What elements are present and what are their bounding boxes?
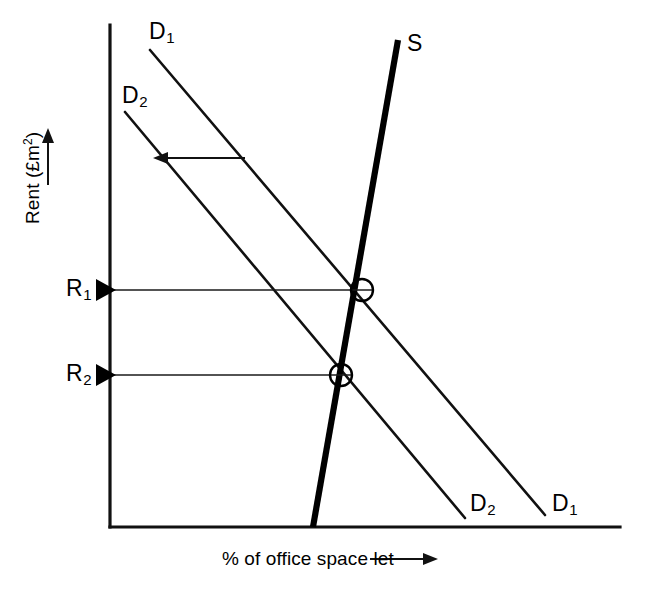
rent-marker-triangle-r2: [96, 364, 116, 386]
demand-curve-d1: [150, 50, 545, 515]
demand-curve-label-d2-top: D2: [122, 84, 147, 107]
d1-top-base: D: [149, 18, 166, 44]
r2-sub: 2: [83, 371, 91, 388]
supply-curve-s: [313, 40, 398, 527]
r1-sub: 1: [83, 286, 91, 303]
arrow-up-icon: [42, 128, 54, 143]
demand-curve-label-d2-bottom: D2: [470, 492, 495, 515]
demand-curve-label-d1-bottom: D1: [552, 492, 577, 515]
r2-base: R: [66, 360, 83, 386]
supply-demand-figure: D1 D2 D2 D1 S R1 R2 Rent (£m2) % of offi…: [0, 0, 650, 594]
d2-bottom-sub: 2: [487, 501, 495, 518]
d1-top-sub: 1: [166, 29, 174, 46]
d1-bottom-base: D: [552, 490, 569, 516]
rent-level-label-r2: R2: [66, 362, 91, 385]
rent-marker-triangle-r1: [96, 279, 116, 301]
r1-base: R: [66, 275, 83, 301]
demand-curve-d2: [125, 112, 465, 518]
d2-top-sub: 2: [139, 93, 147, 110]
x-axis-title: % of office space let: [222, 549, 394, 568]
y-axis-title-text: Rent (£m: [22, 145, 43, 224]
y-axis-title-exponent: 2: [21, 138, 35, 145]
demand-curve-label-d1-top: D1: [149, 20, 174, 43]
arrow-right-icon: [423, 553, 438, 565]
d2-bottom-base: D: [470, 490, 487, 516]
y-axis-title: Rent (£m2): [23, 132, 42, 224]
d1-bottom-sub: 1: [569, 501, 577, 518]
supply-curve-label-s: S: [407, 32, 422, 55]
rent-level-label-r1: R1: [66, 277, 91, 300]
d2-top-base: D: [122, 82, 139, 108]
